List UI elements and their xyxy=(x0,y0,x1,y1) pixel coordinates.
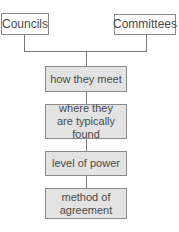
criterion-label: level of power xyxy=(52,157,120,170)
criterion-label: method of agreement xyxy=(58,191,114,217)
criterion-how-they-meet: how they meet xyxy=(45,66,127,92)
committees-connector xyxy=(146,35,147,52)
trunk-connector-3 xyxy=(86,139,87,151)
criterion-where-found: where they are typically found xyxy=(45,104,127,139)
criterion-label: where they are typically found xyxy=(50,102,122,141)
criterion-level-of-power: level of power xyxy=(45,151,127,176)
committees-label: Committees xyxy=(113,18,177,31)
councils-label: Councils xyxy=(2,18,48,31)
criterion-label: how they meet xyxy=(50,73,122,86)
trunk-connector-4 xyxy=(86,176,87,188)
trunk-connector-1 xyxy=(86,51,87,66)
councils-node: Councils xyxy=(1,13,49,35)
councils-connector xyxy=(24,35,25,52)
committees-node: Committees xyxy=(114,14,176,35)
criterion-method-of-agreement: method of agreement xyxy=(45,188,127,219)
